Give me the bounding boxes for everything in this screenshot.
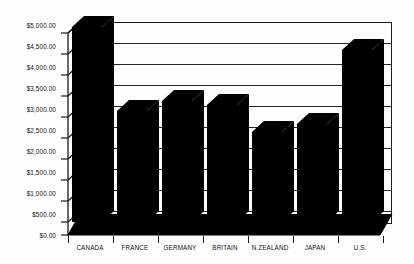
x-axis-label-japan: JAPAN — [305, 244, 326, 252]
x-axis-tick — [203, 236, 204, 243]
x-axis-label-germany: GERMANY — [164, 244, 197, 252]
x-axis: CANADA FRANCE GERMANY BRITAIN N.ZEALAND … — [0, 0, 414, 264]
x-axis-label-n-zealand: N.ZEALAND — [252, 244, 289, 252]
x-axis-label-us: U.S. — [354, 244, 367, 252]
x-axis-tick — [158, 236, 159, 243]
x-axis-tick — [293, 236, 294, 243]
x-axis-tick — [248, 236, 249, 243]
x-axis-tick — [383, 236, 384, 243]
x-axis-label-france: FRANCE — [122, 244, 149, 252]
x-axis-tick — [113, 236, 114, 243]
x-axis-label-britain: BRITAIN — [212, 244, 237, 252]
x-axis-tick — [68, 236, 69, 243]
x-axis-tick — [338, 236, 339, 243]
x-axis-label-canada: CANADA — [76, 244, 103, 252]
bar-chart: $5,000.00 $4,500.00 $4,000.00 $3,500.00 … — [0, 0, 414, 264]
